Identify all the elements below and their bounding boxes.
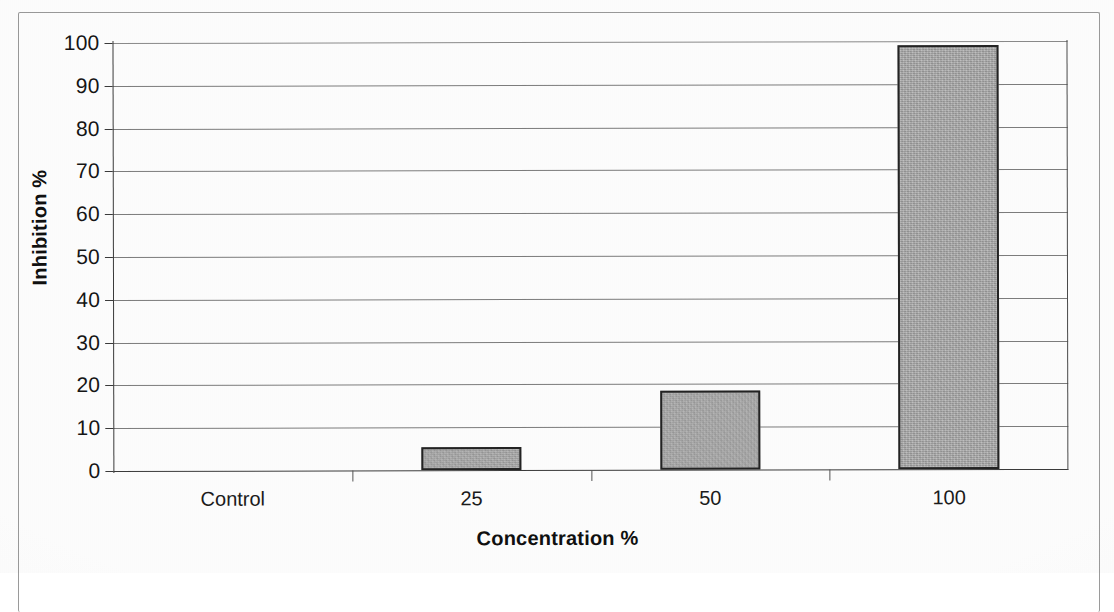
y-tick-mark — [105, 471, 113, 472]
bar — [660, 390, 760, 469]
y-axis-ticks — [0, 0, 1113, 1]
y-tick-label: 30 — [34, 332, 100, 353]
y-tick-label: 0 — [34, 460, 100, 481]
y-gridlines — [0, 0, 1113, 1]
y-tick-mark — [105, 171, 113, 172]
y-tick-mark — [104, 43, 112, 44]
y-tick-mark — [105, 385, 113, 386]
y-axis-tick-labels: 1009080706050403020100 — [0, 0, 1113, 1]
bar — [421, 447, 521, 470]
y-tick-mark — [105, 428, 113, 429]
bar — [898, 45, 999, 469]
y-tick-mark — [105, 300, 113, 301]
x-tick-label: Control — [113, 488, 352, 508]
x-axis-tick-labels: Control2550100 — [0, 0, 1113, 1]
y-tick-mark — [105, 257, 113, 258]
plot-right-edge — [1066, 40, 1068, 470]
x-tick-label: 50 — [591, 487, 830, 508]
x-tick-mark — [591, 470, 592, 481]
x-tick-label: 100 — [830, 487, 1069, 508]
x-axis-title: Concentration % — [1, 526, 1114, 551]
y-tick-label: 20 — [34, 374, 100, 395]
x-tick-mark — [830, 469, 831, 480]
y-tick-mark — [105, 343, 113, 344]
gridline — [112, 41, 1067, 44]
y-tick-label: 10 — [34, 417, 100, 438]
bar-series — [0, 0, 1113, 1]
y-tick-mark — [105, 86, 113, 87]
y-axis-title: Inhibition % — [28, 128, 51, 328]
y-tick-label: 90 — [34, 75, 100, 96]
bar-chart: 1009080706050403020100 Control2550100 Co… — [0, 0, 1114, 574]
x-axis-ticks — [0, 0, 1113, 1]
x-tick-label: 25 — [352, 488, 591, 509]
x-tick-mark — [352, 470, 353, 481]
y-tick-label: 100 — [33, 32, 99, 53]
y-tick-mark — [105, 129, 113, 130]
y-tick-mark — [105, 214, 113, 215]
